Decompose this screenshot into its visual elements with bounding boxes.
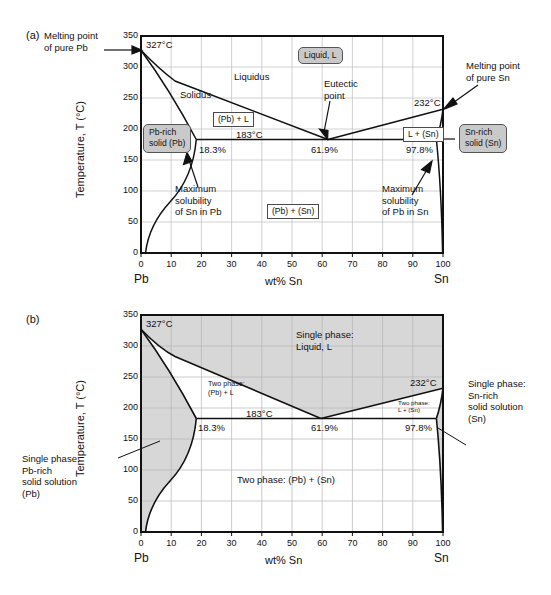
x-tick-30-b: 30 [220, 538, 244, 548]
y-axis-title-a: Temperature, T (°C) [74, 101, 86, 198]
l-plus-sn-region-label-a: L + (Sn) [403, 127, 444, 142]
x-tick-70-b: 70 [340, 538, 364, 548]
melting-point-pb-note-a: Melting point of pure Pb [44, 30, 98, 53]
composition-18-3-a: 18.3% [199, 144, 226, 156]
pb-plus-l-region-label-a: (Pb) + L [213, 112, 254, 127]
pb-rich-solid-region-label-a: Pb-rich solid (Pb) [143, 124, 191, 153]
composition-61-9-b: 61.9% [311, 422, 338, 434]
liquid-region-label-a: Liquid, L [298, 47, 343, 64]
two-phase-l-sn-label-b: Two phase: L + (Sn) [398, 399, 430, 414]
x-tick-20-a: 20 [189, 259, 213, 269]
pb-plus-sn-region-label-a: (Pb) + (Sn) [267, 204, 319, 219]
y-tick-100-b: 100 [112, 464, 138, 474]
x-tick-90-a: 90 [401, 259, 425, 269]
x-axis-title-b: wt% Sn [265, 554, 302, 566]
solidus-label-a: Solidus [180, 89, 211, 101]
two-phase-pb-sn-label-b: Two phase: (Pb) + (Sn) [237, 474, 335, 486]
y-tick-250-a: 250 [112, 92, 138, 102]
x-tick-100-b: 100 [431, 538, 455, 548]
x-axis-title-a: wt% Sn [265, 275, 302, 287]
y-tick-250-b: 250 [112, 371, 138, 381]
temperature-183-b: 183°C [246, 408, 273, 420]
x-tick-50-a: 50 [280, 259, 304, 269]
x-tick-10-a: 10 [159, 259, 183, 269]
temperature-232-a: 232°C [414, 97, 441, 109]
x-tick-30-a: 30 [220, 259, 244, 269]
y-tick-50-a: 50 [112, 216, 138, 226]
x-tick-10-b: 10 [159, 538, 183, 548]
x-tick-20-b: 20 [189, 538, 213, 548]
x-axis-left-endmember-a: Pb [134, 272, 149, 286]
composition-18-3-b: 18.3% [198, 422, 225, 434]
x-tick-100-a: 100 [431, 259, 455, 269]
x-tick-90-b: 90 [401, 538, 425, 548]
x-tick-80-b: 80 [371, 538, 395, 548]
two-phase-pb-l-label-b: Two phase: (Pb) + L [208, 380, 245, 397]
panel-b-shaded-diagram: (b) [0, 295, 551, 595]
y-tick-350-b: 350 [112, 309, 138, 319]
x-tick-40-a: 40 [250, 259, 274, 269]
y-tick-0-b: 0 [112, 526, 138, 536]
max-solubility-pb-in-sn-note-a: Maximum solubility of Pb in Sn [382, 183, 428, 218]
y-tick-150-b: 150 [112, 433, 138, 443]
x-axis-right-endmember-a: Sn [434, 272, 449, 286]
y-tick-50-b: 50 [112, 495, 138, 505]
eutectic-point-note-a: Eutectic point [324, 78, 358, 101]
composition-97-8-a: 97.8% [406, 144, 433, 156]
temperature-183-a: 183°C [236, 129, 263, 141]
x-tick-80-a: 80 [371, 259, 395, 269]
temperature-327-a: 327°C [146, 39, 173, 51]
melting-point-sn-note-a: Melting point of pure Sn [466, 60, 520, 83]
composition-61-9-a: 61.9% [311, 144, 338, 156]
composition-97-8-b: 97.8% [405, 422, 432, 434]
x-tick-60-a: 60 [310, 259, 334, 269]
x-axis-right-endmember-b: Sn [434, 551, 449, 565]
x-tick-0-b: 0 [129, 538, 153, 548]
sn-rich-solid-region-label-a: Sn-rich solid (Sn) [459, 124, 507, 153]
x-tick-0-a: 0 [129, 259, 153, 269]
temperature-232-b: 232°C [410, 377, 437, 389]
single-phase-sn-rich-label-b: Single phase: Sn-rich solid solution (Sn… [468, 378, 526, 424]
y-tick-150-a: 150 [112, 154, 138, 164]
single-phase-pb-rich-label-b: Single phase: Pb-rich solid solution (Pb… [22, 453, 80, 499]
x-tick-40-b: 40 [250, 538, 274, 548]
y-tick-0-a: 0 [112, 247, 138, 257]
x-tick-60-b: 60 [310, 538, 334, 548]
y-tick-200-b: 200 [112, 402, 138, 412]
single-phase-liquid-label-b: Single phase: Liquid, L [296, 329, 354, 352]
x-tick-70-a: 70 [340, 259, 364, 269]
y-tick-350-a: 350 [112, 30, 138, 40]
x-tick-50-b: 50 [280, 538, 304, 548]
y-tick-100-a: 100 [112, 185, 138, 195]
temperature-327-b: 327°C [146, 318, 173, 330]
y-tick-300-a: 300 [112, 61, 138, 71]
max-solubility-sn-in-pb-note-a: Maximum solubility of Sn in Pb [175, 183, 221, 218]
y-tick-300-b: 300 [112, 340, 138, 350]
y-tick-200-a: 200 [112, 123, 138, 133]
liquidus-label-a: Liquidus [234, 71, 269, 83]
x-axis-left-endmember-b: Pb [134, 551, 149, 565]
panel-a-labelled-diagram: (a) [0, 0, 551, 300]
